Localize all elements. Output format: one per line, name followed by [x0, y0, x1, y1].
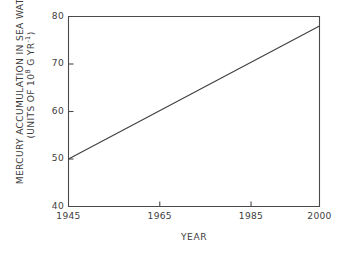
- x-axis-tick-labels: 1945196519852000: [0, 211, 355, 227]
- x-axis-title: YEAR: [68, 232, 320, 242]
- x-tick-label: 2000: [297, 211, 343, 221]
- tick-marks: [69, 64, 252, 207]
- chart-figure: MERCURY ACCUMULATION IN SEA WATER (UNITS…: [0, 0, 355, 260]
- axis-frame: [68, 16, 320, 207]
- x-tick-label: 1945: [46, 211, 92, 221]
- x-tick-label: 1985: [228, 211, 274, 221]
- x-tick-label: 1965: [137, 211, 183, 221]
- data-series-group: [69, 26, 320, 159]
- data-line: [69, 26, 320, 159]
